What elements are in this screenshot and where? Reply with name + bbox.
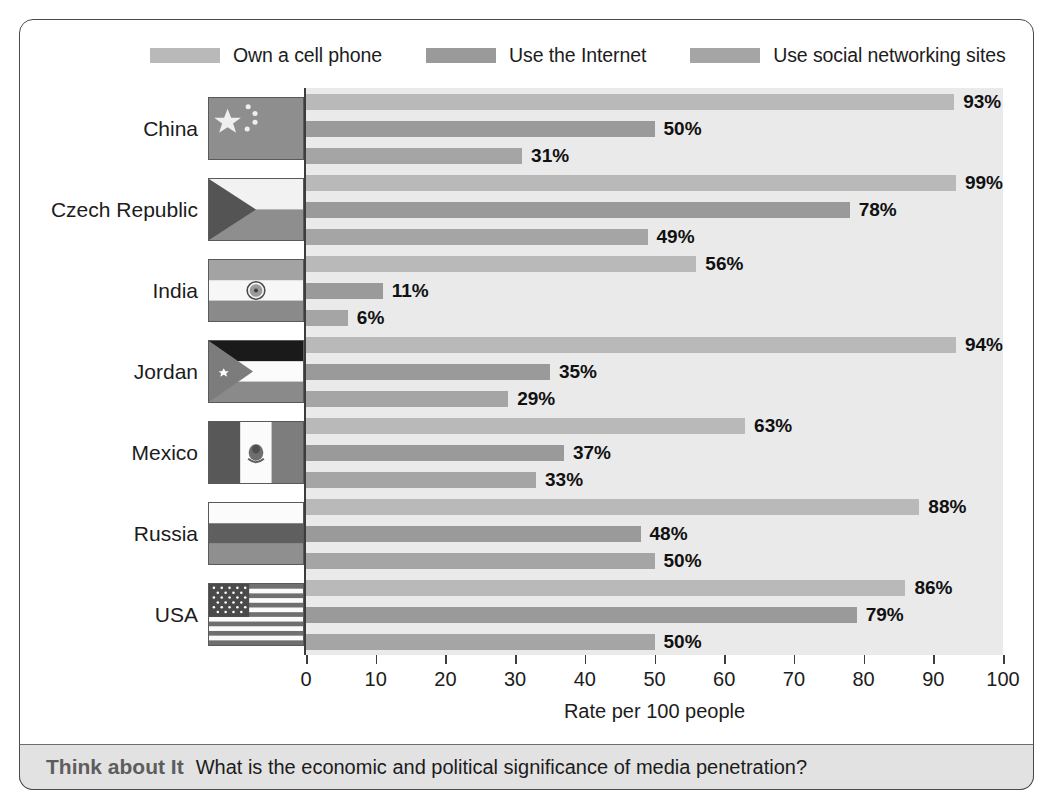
x-axis-tick	[515, 655, 517, 664]
country-label: Jordan	[134, 360, 198, 384]
bar-row: 78%	[306, 196, 1003, 223]
think-about-it-band: Think about It What is the economic and …	[19, 744, 1034, 790]
x-axis-tick-label: 80	[852, 668, 874, 691]
bar-row: 35%	[306, 358, 1003, 385]
x-axis-tick-label: 0	[300, 668, 311, 691]
x-axis-tick-label: 20	[434, 668, 456, 691]
x-axis-tick-label: 100	[986, 668, 1019, 691]
bar-value-label: 50%	[664, 632, 702, 651]
media-penetration-figure: Own a cell phoneUse the InternetUse soci…	[0, 0, 1053, 808]
legend-item: Use social networking sites	[690, 44, 1005, 67]
bar-value-label: 93%	[963, 92, 1001, 111]
x-axis-tick-label: 70	[783, 668, 805, 691]
country-label: India	[152, 279, 198, 303]
bar-groups: 93%50%31%99%78%49%56%11%6%94%35%29%63%37…	[306, 88, 1003, 655]
x-axis-tick	[306, 655, 308, 664]
bar	[306, 445, 564, 461]
country-bar-group: 88%48%50%	[306, 493, 1003, 574]
country-axis-entry: Jordan	[30, 331, 304, 412]
bar-value-label: 63%	[754, 416, 792, 435]
bar	[306, 148, 522, 164]
bar	[306, 94, 954, 110]
bar-row: 6%	[306, 304, 1003, 331]
bar-value-label: 49%	[657, 227, 695, 246]
bar-value-label: 11%	[392, 281, 429, 300]
bar-row: 49%	[306, 223, 1003, 250]
country-axis-entry: USA	[30, 574, 304, 655]
flag-mexico-icon	[208, 421, 304, 484]
legend-swatch	[426, 48, 496, 63]
bar	[306, 229, 648, 245]
bar-value-label: 99%	[965, 173, 1003, 192]
bar-row: 48%	[306, 520, 1003, 547]
bar	[306, 634, 655, 650]
flag-usa-icon	[208, 583, 304, 646]
bar	[306, 580, 905, 596]
bar-row: 50%	[306, 628, 1003, 655]
bar-value-label: 37%	[573, 443, 611, 462]
bar	[306, 202, 850, 218]
country-label: Mexico	[131, 441, 198, 465]
bar	[306, 310, 348, 326]
country-bar-group: 99%78%49%	[306, 169, 1003, 250]
bar-row: 94%	[306, 331, 1003, 358]
bar-value-label: 88%	[928, 497, 966, 516]
country-bar-group: 93%50%31%	[306, 88, 1003, 169]
bar-row: 88%	[306, 493, 1003, 520]
bar-row: 63%	[306, 412, 1003, 439]
bar	[306, 256, 696, 272]
x-axis-tick-label: 60	[713, 668, 735, 691]
think-about-it-question: What is the economic and political signi…	[196, 756, 807, 779]
bar-row: 29%	[306, 385, 1003, 412]
bar	[306, 337, 956, 353]
country-label: Russia	[134, 522, 198, 546]
bar	[306, 472, 536, 488]
bar	[306, 418, 745, 434]
country-label: USA	[155, 603, 198, 627]
x-axis-tick-label: 90	[922, 668, 944, 691]
bar-value-label: 33%	[545, 470, 583, 489]
flag-russia-icon	[208, 502, 304, 565]
x-axis-tick	[376, 655, 378, 664]
bar-value-label: 6%	[357, 308, 384, 327]
country-axis-entry: Russia	[30, 493, 304, 574]
flag-india-icon	[208, 259, 304, 322]
x-axis-tick	[933, 655, 935, 664]
x-axis-tick-label: 30	[504, 668, 526, 691]
bar-value-label: 79%	[866, 605, 904, 624]
x-axis-tick	[794, 655, 796, 664]
bar-value-label: 56%	[705, 254, 743, 273]
bar	[306, 553, 655, 569]
bar-row: 99%	[306, 169, 1003, 196]
x-axis-tick	[1003, 655, 1005, 664]
bar-row: 86%	[306, 574, 1003, 601]
legend-item: Use the Internet	[426, 44, 646, 67]
bar-value-label: 29%	[517, 389, 555, 408]
x-axis-tick	[864, 655, 866, 664]
bar-row: 93%	[306, 88, 1003, 115]
country-bar-group: 94%35%29%	[306, 331, 1003, 412]
legend-item-label: Use the Internet	[509, 44, 646, 67]
country-bar-group: 56%11%6%	[306, 250, 1003, 331]
x-axis-tick	[445, 655, 447, 664]
bar-row: 11%	[306, 277, 1003, 304]
x-axis-tick-label: 10	[365, 668, 387, 691]
bar	[306, 364, 550, 380]
bar-value-label: 31%	[531, 146, 569, 165]
bar-row: 33%	[306, 466, 1003, 493]
flag-china-icon	[208, 97, 304, 160]
bar-value-label: 78%	[859, 200, 897, 219]
country-axis: China Czech Republic India Jordan Mexico	[30, 88, 304, 655]
bar-value-label: 86%	[914, 578, 952, 597]
country-label: Czech Republic	[51, 198, 198, 222]
bar-row: 79%	[306, 601, 1003, 628]
bar-value-label: 35%	[559, 362, 597, 381]
x-axis: 0102030405060708090100	[306, 655, 1003, 656]
think-about-it-label: Think about It	[46, 755, 184, 779]
x-axis-title: Rate per 100 people	[306, 700, 1003, 723]
legend-item-label: Use social networking sites	[773, 44, 1005, 67]
legend-swatch	[150, 48, 220, 63]
country-axis-entry: Czech Republic	[30, 169, 304, 250]
bar-row: 31%	[306, 142, 1003, 169]
chart-legend: Own a cell phoneUse the InternetUse soci…	[150, 42, 1010, 68]
